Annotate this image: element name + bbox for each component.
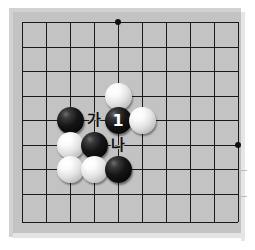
grid-line-horizontal-8 — [22, 222, 238, 223]
board-grid — [0, 0, 255, 250]
grid-line-vertical-3 — [94, 22, 95, 222]
grid-line-horizontal-6 — [22, 169, 238, 170]
grid-line-horizontal-2 — [22, 71, 238, 72]
grid-line-vertical-1 — [46, 22, 47, 222]
grid-line-vertical-5 — [142, 22, 143, 222]
grid-line-vertical-6 — [166, 22, 167, 222]
grid-line-horizontal-4 — [22, 120, 238, 121]
grid-line-horizontal-7 — [22, 194, 238, 195]
go-diagram-figure: 1가나 — [0, 0, 255, 250]
grid-line-horizontal-5 — [22, 145, 238, 146]
grid-line-horizontal-3 — [22, 96, 238, 97]
grid-line-vertical-8 — [214, 22, 215, 222]
grid-line-vertical-7 — [190, 22, 191, 222]
grid-line-vertical-4 — [118, 22, 119, 222]
grid-line-horizontal-1 — [22, 47, 238, 48]
grid-line-vertical-9 — [238, 22, 239, 222]
grid-line-vertical-2 — [70, 22, 71, 222]
grid-line-horizontal-0 — [22, 22, 238, 23]
grid-line-vertical-0 — [22, 22, 23, 222]
